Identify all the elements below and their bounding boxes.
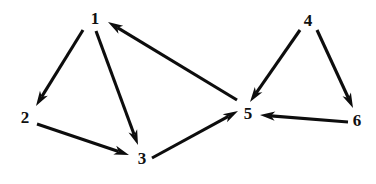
graph-edge xyxy=(96,31,138,145)
graph-node-6: 6 xyxy=(353,112,362,129)
edge-shaft xyxy=(42,30,83,97)
edge-shaft xyxy=(256,30,300,93)
edge-shaft xyxy=(37,124,119,151)
graph-edge xyxy=(37,124,129,155)
graph-node-1: 1 xyxy=(91,10,100,27)
edge-shaft xyxy=(96,31,134,135)
edge-shaft xyxy=(117,28,237,100)
graph-edge xyxy=(36,30,83,106)
graph-edge xyxy=(152,111,238,158)
graph-canvas xyxy=(0,0,376,184)
edge-arrowhead xyxy=(36,91,48,106)
graph-edge xyxy=(317,30,353,108)
graph-node-4: 4 xyxy=(304,12,313,29)
graph-edge xyxy=(108,22,237,100)
graph-node-3: 3 xyxy=(138,150,147,167)
edge-layer xyxy=(36,22,353,158)
graph-node-2: 2 xyxy=(21,109,30,126)
edge-shaft xyxy=(317,30,348,98)
graph-edge xyxy=(250,30,300,102)
graph-node-5: 5 xyxy=(244,105,253,122)
graph-edge xyxy=(260,112,348,122)
edge-arrowhead xyxy=(108,22,123,34)
edge-shaft xyxy=(271,116,348,122)
directed-graph-figure: 123456 xyxy=(0,0,376,184)
edge-shaft xyxy=(152,116,228,158)
